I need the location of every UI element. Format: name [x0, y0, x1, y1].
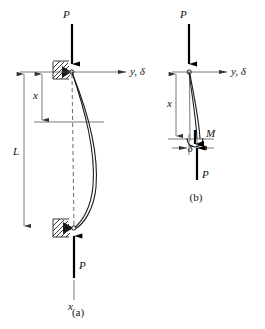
panel-a-caption: (a): [72, 306, 85, 319]
panel-b-distance-label: x: [166, 97, 172, 109]
panel-a-distance-label: x: [32, 89, 38, 101]
panel-a: P y, δ: [12, 8, 146, 319]
panel-b-caption: (b): [190, 191, 203, 204]
panel-a-top-load-label: P: [62, 8, 70, 20]
panel-b-deflection-label: δ: [187, 142, 193, 154]
panel-a-length-label: L: [12, 145, 19, 157]
panel-b-bottom-load-label: P: [201, 168, 209, 180]
panel-a-centerline: [72, 74, 74, 228]
panel-b-axis-label: y, δ: [230, 65, 247, 77]
column-edge-left: [72, 72, 93, 228]
column-edge-right: [73, 74, 97, 229]
diagram-canvas: P y, δ: [0, 0, 265, 329]
panel-b-top-load-label: P: [179, 8, 187, 20]
panel-a-bottom-load-label: P: [78, 259, 86, 271]
panel-b-column-segment: [189, 72, 200, 139]
panel-b-moment-label: M: [205, 127, 216, 139]
panel-a-buckled-column: [72, 72, 96, 229]
panel-a-axis-label: y, δ: [129, 65, 146, 77]
panel-b: P y, δ x M: [166, 8, 247, 204]
figure-root: P y, δ: [0, 0, 265, 329]
panel-b-column-edge-right: [190, 74, 200, 139]
panel-b-reference-line: [190, 74, 191, 141]
